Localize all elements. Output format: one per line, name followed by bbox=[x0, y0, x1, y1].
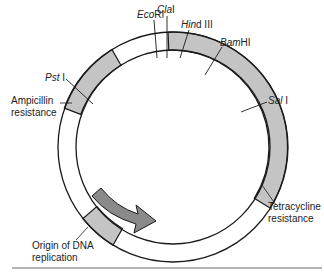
bamhi-label: BamHI bbox=[220, 37, 251, 48]
tetracycline-label-line1: Tetracycline bbox=[268, 201, 321, 212]
hindiii-label: Hind III bbox=[181, 19, 213, 30]
tetracycline-resistance-region bbox=[168, 32, 288, 208]
ampicillin-resistance-region bbox=[64, 50, 121, 115]
ampicillin-label-line2: resistance bbox=[11, 107, 57, 118]
tetracycline-label-line2: resistance bbox=[268, 213, 314, 224]
clai-label: ClaI bbox=[157, 4, 175, 15]
origin-label-line1: Origin of DNA bbox=[32, 240, 94, 251]
sali-label: Sal I bbox=[268, 95, 288, 106]
ampicillin-label-line1: Ampicillin bbox=[11, 95, 53, 106]
origin-leader-line bbox=[76, 227, 88, 240]
origin-label-line2: replication bbox=[32, 252, 78, 263]
plasmid-diagram: EcoRI ClaI Hind III BamHI Sal I Pst I Am… bbox=[0, 0, 324, 273]
psti-label: Pst I bbox=[45, 72, 65, 83]
